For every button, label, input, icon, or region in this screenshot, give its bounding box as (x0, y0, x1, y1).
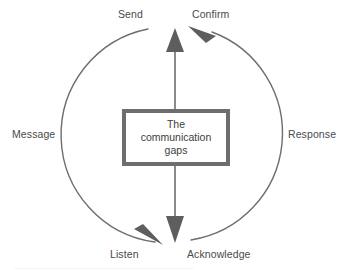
label-listen: Listen (110, 248, 139, 260)
listen-arrowhead (134, 224, 163, 245)
label-response: Response (288, 128, 336, 140)
acknowledge-arrowhead (166, 216, 184, 243)
label-acknowledge: Acknowledge (187, 248, 251, 260)
label-send: Send (118, 8, 143, 20)
label-confirm: Confirm (192, 8, 229, 20)
center-box: The communication gaps (122, 109, 230, 166)
send-arrowhead (166, 28, 184, 52)
confirm-arrowhead (188, 26, 216, 43)
scan-artifact-line (14, 268, 194, 269)
communication-gaps-diagram: The communication gaps Send Confirm Mess… (0, 0, 346, 275)
center-box-text: The communication gaps (141, 118, 212, 157)
label-message: Message (12, 128, 55, 140)
